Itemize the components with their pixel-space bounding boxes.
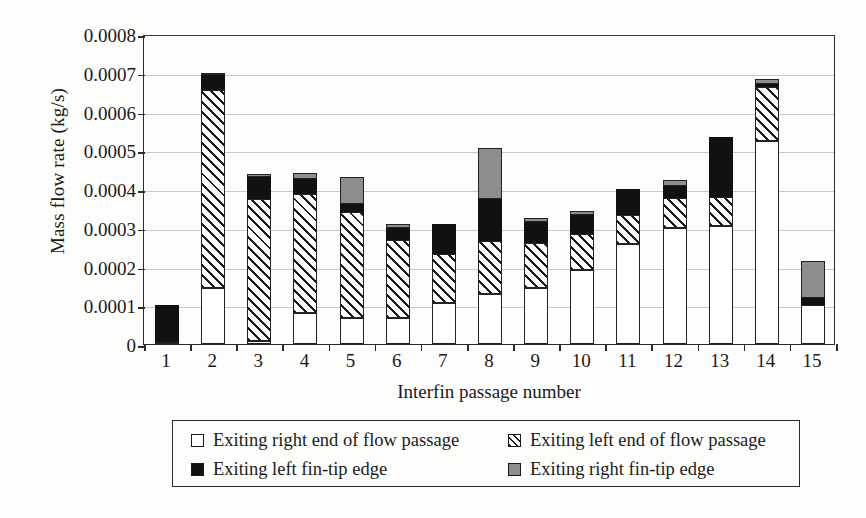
bar-segment (340, 318, 364, 344)
x-tick-label: 14 (756, 350, 775, 372)
bar-segment (663, 180, 687, 185)
bar-segment (201, 75, 225, 91)
bar-segment (247, 341, 271, 344)
stacked-bar[interactable] (478, 148, 502, 344)
x-tick-label: 15 (802, 350, 821, 372)
bar-slot (467, 36, 513, 344)
stacked-bar[interactable] (340, 177, 364, 344)
bar-segment (201, 73, 225, 75)
bar-segment (386, 224, 410, 227)
bar-segment (524, 288, 548, 344)
y-tick-label: 0.0005 (38, 142, 136, 161)
bar-segment (478, 241, 502, 294)
x-tick-label: 6 (392, 350, 402, 372)
y-tick-label: 0.0006 (38, 103, 136, 122)
bar-segment (755, 141, 779, 344)
legend-row-2: Exiting left fin-tip edge Exiting right … (173, 455, 799, 484)
bar-segment (663, 228, 687, 344)
x-tick-label: 11 (618, 350, 636, 372)
bar-segment (709, 226, 733, 344)
stacked-bar[interactable] (201, 73, 225, 344)
x-tick-mark (836, 344, 838, 351)
bar-segment (201, 90, 225, 288)
bar-group (144, 36, 834, 344)
bar-segment (570, 211, 594, 215)
x-tick-label: 9 (530, 350, 540, 372)
y-tick-label: 0.0008 (38, 26, 136, 45)
stacked-bar[interactable] (155, 305, 179, 344)
x-tick-label: 12 (664, 350, 683, 372)
x-tick-label: 1 (161, 350, 171, 372)
legend-swatch-white-icon (191, 434, 204, 447)
bar-segment (432, 224, 456, 254)
bar-segment (340, 177, 364, 205)
bar-segment (755, 79, 779, 84)
bar-segment (293, 179, 317, 195)
x-axis-tick-labels: 123456789101112131415 (143, 350, 835, 380)
bar-segment (801, 261, 825, 299)
bar-slot (559, 36, 605, 344)
x-tick-label: 10 (572, 350, 591, 372)
bar-segment (293, 173, 317, 178)
legend-label-0: Exiting right end of flow passage (213, 430, 459, 451)
x-tick-label: 5 (346, 350, 356, 372)
bar-slot (236, 36, 282, 344)
legend-item-2: Exiting left fin-tip edge (173, 455, 508, 484)
stacked-bar[interactable] (386, 224, 410, 344)
bar-segment (478, 294, 502, 344)
bar-segment (755, 87, 779, 140)
y-tick-label: 0.0004 (38, 181, 136, 200)
bar-segment (755, 84, 779, 87)
y-tick-label: 0 (38, 336, 136, 355)
plot-area (143, 35, 835, 345)
legend-row-1: Exiting right end of flow passage Exitin… (173, 426, 799, 455)
stacked-bar[interactable] (247, 174, 271, 344)
bar-segment (801, 305, 825, 344)
stacked-bar[interactable] (524, 218, 548, 344)
bar-segment (478, 199, 502, 242)
legend-swatch-gray-icon (508, 463, 521, 476)
bar-segment (663, 186, 687, 198)
bar-segment (524, 222, 548, 243)
bar-segment (247, 177, 271, 198)
x-tick-label: 3 (254, 350, 264, 372)
bar-slot (375, 36, 421, 344)
stacked-bar[interactable] (616, 189, 640, 344)
bar-segment (709, 197, 733, 226)
x-tick-label: 2 (207, 350, 217, 372)
stacked-bar[interactable] (570, 211, 594, 344)
bar-segment (432, 303, 456, 344)
y-tick-label: 0.0001 (38, 297, 136, 316)
bar-segment (386, 240, 410, 319)
bar-slot (282, 36, 328, 344)
y-tick-label: 0.0007 (38, 64, 136, 83)
bar-segment (293, 313, 317, 344)
x-tick-label: 8 (484, 350, 494, 372)
legend-label-1: Exiting left end of flow passage (530, 430, 766, 451)
legend-item-0: Exiting right end of flow passage (173, 426, 508, 455)
bar-segment (340, 212, 364, 318)
chart-legend: Exiting right end of flow passage Exitin… (172, 420, 800, 487)
x-tick-label: 13 (710, 350, 729, 372)
bar-slot (651, 36, 697, 344)
bar-segment (663, 198, 687, 228)
x-tick-label: 4 (300, 350, 310, 372)
bar-segment (155, 305, 179, 342)
bar-slot (744, 36, 790, 344)
y-axis-tick-labels: 00.00010.00020.00030.00040.00050.00060.0… (38, 0, 136, 518)
bar-segment (386, 318, 410, 344)
x-tick-label: 7 (438, 350, 448, 372)
bar-slot (144, 36, 190, 344)
legend-item-1: Exiting left end of flow passage (508, 426, 799, 455)
bar-segment (478, 148, 502, 198)
stacked-bar[interactable] (755, 79, 779, 344)
stacked-bar[interactable] (432, 224, 456, 344)
chart-figure: Mass flow rate (kg/s) 00.00010.00020.000… (0, 0, 866, 518)
bar-segment (616, 189, 640, 215)
stacked-bar[interactable] (709, 137, 733, 344)
stacked-bar[interactable] (663, 180, 687, 344)
stacked-bar[interactable] (293, 173, 317, 344)
stacked-bar[interactable] (801, 261, 825, 344)
bar-segment (524, 243, 548, 288)
bar-segment (247, 199, 271, 341)
